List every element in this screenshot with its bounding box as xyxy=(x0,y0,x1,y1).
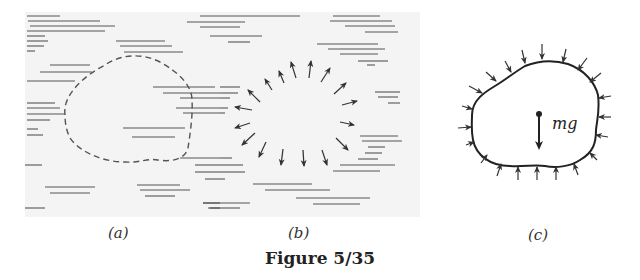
panel-c-label: (c) xyxy=(528,226,548,244)
panel-a-label: (a) xyxy=(108,224,129,242)
weight-label: mg xyxy=(552,114,577,133)
fluid-region xyxy=(25,12,420,217)
figure-caption: Figure 5/35 xyxy=(0,248,640,268)
panel-b-label: (b) xyxy=(288,224,309,242)
